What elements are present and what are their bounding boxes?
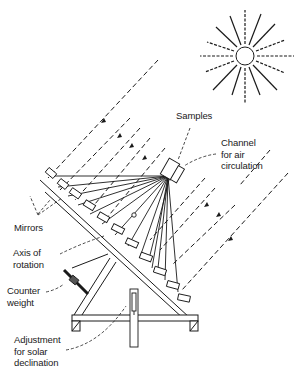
samples-holder [132, 158, 185, 217]
label-samples: Samples [176, 110, 212, 122]
label-adjustment-solar-declination: Adjustment for solar declination [14, 334, 61, 369]
label-channel-air-circulation: Channel for air circulation [221, 137, 263, 172]
sun-icon [200, 10, 294, 104]
label-counterweight: Counter weight [7, 285, 40, 308]
declination-post [130, 289, 138, 347]
counterweight [64, 270, 88, 294]
label-axis-of-rotation: Axis of rotation [13, 247, 44, 270]
label-mirrors: Mirrors [14, 222, 43, 234]
heliostat-diagram [0, 0, 302, 379]
